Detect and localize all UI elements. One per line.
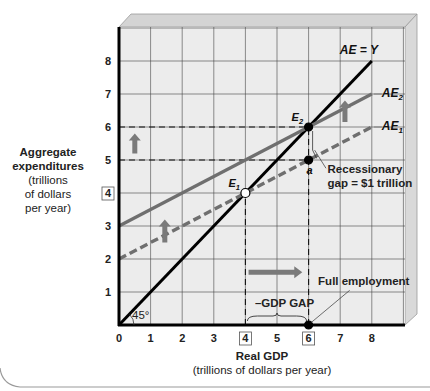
y-tick-label: 5 [105,154,111,166]
recessionary-gap-value: gap = $1 trillion [328,177,413,189]
x-tick-label: 2 [179,332,185,344]
y-tick-label: 2 [105,253,111,265]
y-tick-label: 1 [105,286,111,298]
curve-label: AE = Y [339,43,379,57]
x-tick-label: 1 [148,332,154,344]
plate-top [119,14,417,27]
x-axis-subtitle: (trillions of dollars per year) [193,364,332,376]
full-employment-label: Full employment [318,275,410,287]
y-axis-title: expenditures [12,160,84,172]
y-axis-title: Aggregate [20,146,77,158]
x-tick-label: 6 [306,332,312,344]
x-tick-label: 4 [242,332,249,344]
y-axis-subtitle: per year) [25,202,71,214]
recessionary-gap-label: Recessionary [328,163,403,175]
x-tick-label: 3 [211,332,217,344]
x-axis-title: Real GDP [236,350,289,362]
point-label: a [307,164,313,176]
y-tick-label: 7 [105,88,111,100]
y-axis-subtitle: (trillions [28,174,68,186]
y-tick-label: 4 [105,187,112,199]
point-marker [241,189,250,198]
chart-figure: 01234567812345678 Real GDP(trillions of … [0,0,430,391]
gdp-gap-label: –GDP GAP [255,297,315,309]
angle-label: 45° [132,309,149,321]
y-tick-label: 8 [105,55,111,67]
x-tick-label: 8 [369,332,375,344]
x-tick-label: 0 [116,332,122,344]
x-tick-label: 7 [337,332,343,344]
y-tick-label: 3 [105,220,111,232]
y-tick-label: 6 [105,121,111,133]
point-marker [305,156,313,164]
point-marker [305,123,313,131]
y-axis-subtitle: of dollars [25,188,72,200]
x-tick-label: 5 [274,332,280,344]
